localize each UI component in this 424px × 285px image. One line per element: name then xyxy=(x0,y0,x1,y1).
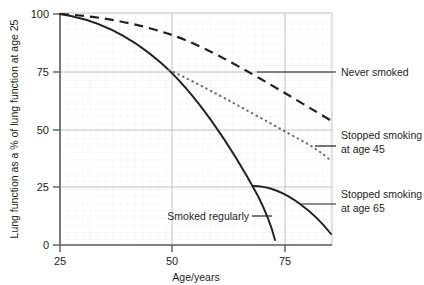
y-tick-label-50: 50 xyxy=(37,124,49,136)
y-tick-label-25: 25 xyxy=(37,181,49,193)
y-tick-label-75: 75 xyxy=(37,66,49,78)
lung-function-chart: 100 75 50 25 0 25 50 75 Lung function as… xyxy=(0,0,424,285)
label-stopped-age-45-line2: at age 45 xyxy=(341,143,385,155)
x-tick-label-25: 25 xyxy=(54,255,66,267)
y-tick-label-0: 0 xyxy=(43,239,49,251)
y-tick-label-100: 100 xyxy=(31,8,49,20)
y-axis-title: Lung function as a % of lung function at… xyxy=(8,19,20,238)
label-stopped-age-65-line2: at age 65 xyxy=(341,202,385,214)
x-tick-label-50: 50 xyxy=(166,255,178,267)
chart-canvas: 100 75 50 25 0 25 50 75 Lung function as… xyxy=(0,0,424,285)
label-stopped-age-65-line1: Stopped smoking xyxy=(341,188,422,200)
label-stopped-age-45-line1: Stopped smoking xyxy=(341,129,422,141)
label-never-smoked: Never smoked xyxy=(341,66,409,78)
y-axis-ticks xyxy=(53,14,60,245)
x-tick-label-75: 75 xyxy=(279,255,291,267)
x-axis-ticks xyxy=(60,245,285,252)
label-smoked-regularly: Smoked regularly xyxy=(167,210,249,222)
x-axis-title: Age/years xyxy=(172,271,219,283)
